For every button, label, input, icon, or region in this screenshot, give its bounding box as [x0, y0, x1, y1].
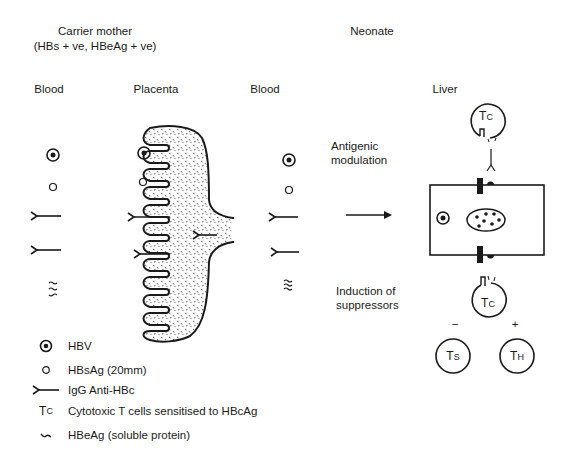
mother-blood-column: [31, 149, 61, 296]
hbeag-wave-icon: [28, 430, 64, 440]
hbv-icon: [283, 154, 295, 166]
hbsag-icon: [50, 184, 57, 191]
hepatocyte-cell: [430, 178, 544, 263]
nucleus-icon: [467, 209, 505, 231]
ts-label: TS: [446, 349, 459, 364]
legend-label: HBsAg (20mm): [68, 364, 147, 376]
hbcag-antigen-bottom: [487, 255, 494, 259]
igg-antibody-icon: [269, 213, 298, 221]
igg-antibody-icon: [271, 248, 299, 256]
legend-item-hbv: HBV: [28, 338, 92, 354]
hbcag-antigen-top: [487, 182, 494, 186]
legend-label: HBV: [68, 340, 92, 352]
membrane-receptor-bottom: [477, 246, 483, 263]
legend-item-tc: TC Cytotoxic T cells sensitised to HBcAg: [28, 403, 257, 419]
th-label: TH: [510, 349, 524, 364]
legend-item-igg: IgG Anti-HBc: [28, 382, 134, 398]
legend-label: Cytotoxic T cells sensitised to HBcAg: [68, 405, 257, 417]
placenta-shape: [144, 126, 233, 342]
hbsag-icon: [28, 365, 64, 375]
igg-antibody-icon: [28, 385, 64, 395]
igg-antibody-icon: [31, 212, 61, 220]
arrow-right-icon: [346, 211, 392, 219]
legend-label: HBeAg (soluble protein): [68, 429, 190, 441]
tc-top-label: TC: [479, 109, 493, 124]
hbeag-wave-icon: [284, 280, 292, 290]
membrane-receptor-top: [477, 178, 483, 194]
tc-symbol: TC: [28, 404, 64, 418]
hbv-icon: [47, 149, 59, 161]
tc-bottom-label: TC: [481, 296, 495, 311]
hbeag-wave-icon: [49, 282, 57, 296]
neonate-blood-column: [269, 154, 299, 290]
legend-label: IgG Anti-HBc: [68, 384, 134, 396]
mother-placenta-hbsag: [140, 179, 147, 186]
legend-item-hbsag: HBsAg (20mm): [28, 362, 147, 378]
hbv-icon: [28, 339, 64, 353]
igg-antibody-icon: [31, 246, 61, 254]
hbsag-icon: [286, 187, 293, 194]
legend-item-hbeag: HBeAg (soluble protein): [28, 427, 190, 443]
